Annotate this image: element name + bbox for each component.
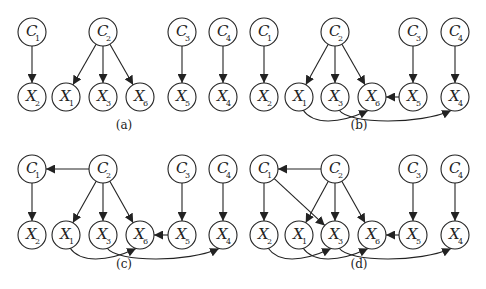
node-c3: C3	[168, 155, 196, 183]
node-subscript: 4	[458, 237, 463, 246]
node-x6: X6	[358, 221, 386, 249]
edge-c2-to-x1	[73, 181, 96, 223]
node-c4: C4	[441, 155, 469, 183]
node-c4: C4	[209, 18, 237, 46]
node-x3: X3	[89, 221, 117, 249]
node-c4: C4	[209, 155, 237, 183]
node-subscript: 4	[226, 237, 231, 246]
node-c2: C2	[321, 155, 349, 183]
node-subscript: 2	[267, 99, 272, 108]
node-subscript: 2	[106, 34, 111, 43]
node-subscript: 1	[302, 237, 307, 246]
dag-figure: C1C2C3C4X2X1X3X6X5X4(a)C1C2C3C4X2X1X3X6X…	[0, 0, 486, 289]
node-subscript: 4	[458, 171, 463, 180]
node-c1: C1	[250, 155, 278, 183]
node-subscript: 5	[185, 99, 190, 108]
node-c2: C2	[89, 155, 117, 183]
node-subscript: 4	[226, 34, 231, 43]
node-subscript: 1	[267, 34, 272, 43]
panel-caption: (d)	[350, 257, 367, 271]
node-x5: X5	[399, 221, 427, 249]
node-subscript: 4	[458, 99, 463, 108]
node-x3: X3	[321, 221, 349, 249]
node-subscript: 2	[338, 171, 343, 180]
node-subscript: 4	[226, 171, 231, 180]
node-subscript: 3	[416, 171, 421, 180]
node-subscript: 5	[416, 237, 421, 246]
node-subscript: 2	[338, 34, 343, 43]
node-c4: C4	[441, 18, 469, 46]
panel-caption: (c)	[116, 257, 132, 271]
panel-c: C1C2C3C4X2X1X3X6X5X4(c)	[18, 155, 237, 271]
node-subscript: 2	[267, 237, 272, 246]
node-subscript: 1	[69, 237, 74, 246]
node-subscript: 1	[69, 99, 74, 108]
node-c3: C3	[399, 18, 427, 46]
node-subscript: 6	[143, 99, 148, 108]
node-x4: X4	[209, 221, 237, 249]
node-x6: X6	[358, 83, 386, 111]
node-subscript: 3	[416, 34, 421, 43]
node-x6: X6	[126, 221, 154, 249]
edge-c2-to-x6	[110, 181, 133, 223]
node-subscript: 6	[143, 237, 148, 246]
panel-a: C1C2C3C4X2X1X3X6X5X4(a)	[18, 18, 237, 132]
node-c3: C3	[168, 18, 196, 46]
node-x4: X4	[441, 83, 469, 111]
node-c1: C1	[18, 155, 46, 183]
node-subscript: 5	[416, 99, 421, 108]
node-subscript: 6	[375, 237, 380, 246]
node-subscript: 3	[106, 237, 111, 246]
node-x1: X1	[52, 83, 80, 111]
node-x5: X5	[168, 83, 196, 111]
node-x6: X6	[126, 83, 154, 111]
node-c1: C1	[250, 18, 278, 46]
node-subscript: 1	[267, 171, 272, 180]
node-x4: X4	[441, 221, 469, 249]
edge-c2-to-x6	[342, 44, 365, 85]
node-subscript: 1	[35, 171, 40, 180]
node-subscript: 3	[338, 99, 343, 108]
node-c2: C2	[89, 18, 117, 46]
node-x1: X1	[285, 83, 313, 111]
node-x2: X2	[250, 83, 278, 111]
node-x5: X5	[168, 221, 196, 249]
node-subscript: 3	[185, 171, 190, 180]
edge-c2-to-x6	[110, 44, 133, 85]
node-c3: C3	[399, 155, 427, 183]
node-subscript: 1	[302, 99, 307, 108]
panel-d: C1C2C3C4X2X1X3X6X5X4(d)	[250, 155, 469, 271]
node-x5: X5	[399, 83, 427, 111]
panel-b: C1C2C3C4X2X1X3X6X5X4(b)	[250, 18, 469, 132]
node-subscript: 2	[106, 171, 111, 180]
edge-x2-to-x3	[268, 248, 331, 259]
node-subscript: 2	[35, 99, 40, 108]
node-subscript: 4	[458, 34, 463, 43]
edge-c2-to-x1	[306, 44, 328, 85]
node-subscript: 2	[35, 237, 40, 246]
node-subscript: 6	[375, 99, 380, 108]
node-subscript: 3	[106, 99, 111, 108]
node-x2: X2	[18, 83, 46, 111]
node-c2: C2	[321, 18, 349, 46]
panel-caption: (b)	[350, 118, 367, 132]
node-x4: X4	[209, 83, 237, 111]
node-x3: X3	[89, 83, 117, 111]
node-x1: X1	[52, 221, 80, 249]
node-subscript: 3	[338, 237, 343, 246]
edge-c2-to-x1	[306, 181, 329, 222]
edge-c2-to-x1	[73, 44, 96, 85]
node-subscript: 3	[185, 34, 190, 43]
node-x2: X2	[250, 221, 278, 249]
node-c1: C1	[18, 18, 46, 46]
node-subscript: 5	[185, 237, 190, 246]
node-x1: X1	[285, 221, 313, 249]
edge-c2-to-x6	[342, 181, 365, 223]
panel-caption: (a)	[116, 118, 133, 132]
node-x3: X3	[321, 83, 349, 111]
node-subscript: 4	[226, 99, 231, 108]
node-x2: X2	[18, 221, 46, 249]
node-subscript: 1	[35, 34, 40, 43]
figure-canvas: C1C2C3C4X2X1X3X6X5X4(a)C1C2C3C4X2X1X3X6X…	[0, 0, 486, 289]
